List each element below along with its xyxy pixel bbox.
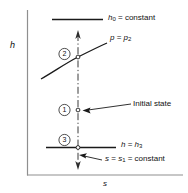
pressure-subscript: 2: [128, 36, 131, 42]
state-label-2: 2: [59, 48, 71, 60]
x-axis-label: s: [103, 180, 107, 188]
enthalpy-h3-label: h = h3: [121, 141, 142, 149]
pressure-line: [41, 43, 107, 79]
pressure-equals: =: [114, 33, 123, 42]
isentropic-equals: =: [109, 154, 118, 163]
initial-state-leader: [83, 104, 132, 113]
stagnation-enthalpy-rest: = constant: [116, 13, 155, 22]
initial-state-label: Initial state: [133, 100, 171, 108]
stagnation-enthalpy-label: h0 = constant: [108, 14, 155, 22]
diagram-canvas: [0, 0, 188, 193]
enthalpy-h3-equals: =: [125, 140, 134, 149]
axes-group: [27, 10, 183, 176]
state-label-3: 3: [59, 134, 71, 146]
y-axis-label: h: [10, 41, 15, 50]
state-point-1-marker: [76, 108, 80, 112]
isentropic-rest: = constant: [125, 154, 164, 163]
state-label-1: 1: [59, 104, 71, 116]
pressure-label: p = p2: [110, 34, 131, 42]
state-point-2-marker: [76, 55, 80, 59]
hs-diagram: h s h0 = constant p = p2 Initial state h…: [0, 0, 188, 193]
isentropic-label-leader: [79, 153, 102, 160]
isentropic-label: s = s1 = constant: [105, 155, 165, 163]
state-point-3-marker: [76, 146, 80, 150]
enthalpy-h3-subscript: 3: [139, 143, 142, 149]
